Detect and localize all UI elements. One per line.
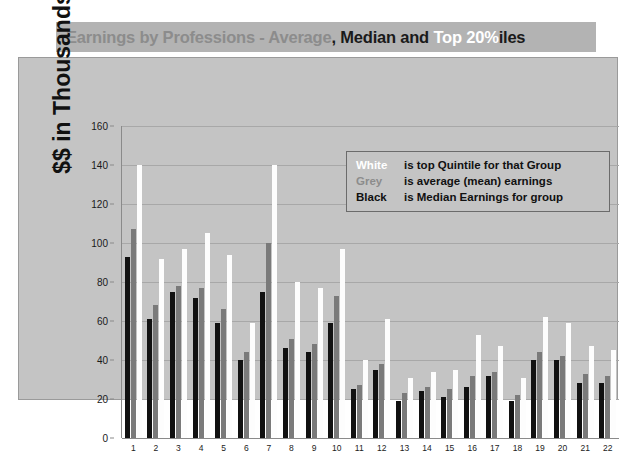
bar-13-average [402,393,407,438]
bar-9-top-quintile [318,288,323,438]
legend-key-black: Black [356,189,404,205]
bar-3-average [176,286,181,438]
x-tick-label-5: 5 [212,440,235,455]
legend-key-white: White [356,157,404,173]
legend-box: Whiteis top Quintile for that GroupGreyi… [346,151,610,212]
gridline-0 [122,438,619,439]
x-tick-label-22: 22 [596,440,619,455]
title-segment-iles: iles [499,28,526,46]
bar-group-7 [258,126,281,438]
bar-5-top-quintile [227,255,232,438]
title-segment-comma: , [331,28,340,46]
bar-group-4 [190,126,213,438]
bar-11-average [357,385,362,438]
bar-10-average [334,296,339,438]
x-tick-label-18: 18 [506,440,529,455]
legend-row-black: Blackis Median Earnings for group [356,189,601,205]
x-tick-label-4: 4 [190,440,213,455]
x-tick-label-7: 7 [258,440,281,455]
bar-2-average [153,305,158,438]
bar-4-average [199,288,204,438]
bar-15-average [447,389,452,438]
x-tick-label-11: 11 [348,440,371,455]
y-tick-label-60: 60 [62,316,108,327]
legend-desc-black: is Median Earnings for group [404,189,563,205]
bar-13-top-quintile [408,378,413,438]
x-tick-label-1: 1 [122,440,145,455]
bar-3-median [170,292,175,438]
bar-group-9 [303,126,326,438]
bar-7-average [266,243,271,438]
bar-group-10 [325,126,348,438]
bar-4-median [193,298,198,438]
bar-group-2 [145,126,168,438]
y-tick-label-80: 80 [62,277,108,288]
bar-1-top-quintile [137,165,142,438]
bar-group-3 [167,126,190,438]
bar-group-6 [235,126,258,438]
bar-19-average [537,352,542,438]
bar-7-top-quintile [272,165,277,438]
x-tick-label-13: 13 [393,440,416,455]
bar-21-top-quintile [589,346,594,438]
y-tick-label-20: 20 [62,394,108,405]
bar-5-average [221,309,226,438]
page-title: Earnings by Professions - Average, Media… [66,28,525,47]
bar-17-top-quintile [498,346,503,438]
legend-row-white: Whiteis top Quintile for that Group [356,157,601,173]
title-segment-median: Median [340,28,396,46]
x-tick-label-3: 3 [167,440,190,455]
bar-12-median [373,370,378,438]
y-tick-mark-100 [110,243,114,244]
x-tick-label-9: 9 [303,440,326,455]
x-tick-label-12: 12 [371,440,394,455]
bar-8-top-quintile [295,282,300,438]
y-tick-mark-20 [110,399,114,400]
bar-group-1 [122,126,145,438]
bar-17-median [486,376,491,438]
bar-20-average [560,356,565,438]
x-tick-label-17: 17 [484,440,507,455]
title-segment-average: Average [268,28,331,46]
x-tick-label-16: 16 [461,440,484,455]
title-segment-top: Top 20% [433,28,498,46]
bar-8-average [289,339,294,438]
chart-title-bar: Earnings by Professions - Average, Media… [56,22,596,52]
bar-6-average [244,352,249,438]
legend-row-grey: Greyis average (mean) earnings [356,173,601,189]
bar-14-top-quintile [431,372,436,438]
bar-12-top-quintile [385,319,390,438]
title-segment-prefix: Earnings by Professions - [66,28,268,46]
bar-20-median [554,360,559,438]
bar-18-median [509,401,514,438]
y-axis-ticks: 020406080100120140160 [62,126,108,438]
y-tick-mark-80 [110,282,114,283]
bar-1-average [131,229,136,438]
bar-2-top-quintile [159,259,164,438]
bar-9-median [306,352,311,438]
title-segment-and: and [396,28,434,46]
bar-13-median [396,401,401,438]
x-tick-label-6: 6 [235,440,258,455]
bar-10-median [328,323,333,438]
bar-8-median [283,348,288,438]
y-tick-label-120: 120 [62,199,108,210]
x-tick-label-15: 15 [438,440,461,455]
bar-7-median [260,292,265,438]
x-tick-label-20: 20 [551,440,574,455]
chart-panel: $$ in Thousands 020406080100120140160 12… [18,57,618,400]
bar-11-top-quintile [363,360,368,438]
bar-22-top-quintile [611,350,616,438]
bar-15-median [441,397,446,438]
bar-3-top-quintile [182,249,187,438]
bar-22-average [605,376,610,438]
bar-19-median [531,360,536,438]
y-tick-label-160: 160 [62,121,108,132]
bar-12-average [379,364,384,438]
y-tick-mark-140 [110,165,114,166]
x-axis-labels: 12345678910111213141516171819202122 [122,440,619,455]
bar-6-top-quintile [250,323,255,438]
y-tick-mark-60 [110,321,114,322]
y-tick-mark-0 [110,438,114,439]
y-tick-mark-120 [110,204,114,205]
